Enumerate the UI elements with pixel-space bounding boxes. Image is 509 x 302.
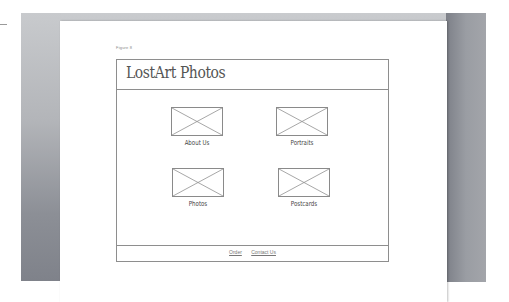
footer-link-contact-us[interactable]: Contact Us xyxy=(251,249,276,255)
tile-label: About Us xyxy=(174,139,221,147)
tile-portraits[interactable]: Portraits xyxy=(272,107,332,147)
figure-label: Figure 8 xyxy=(116,45,132,50)
wireframe-footer: Order Contact Us xyxy=(117,245,388,261)
image-placeholder-icon xyxy=(278,168,330,197)
footer-links: Order Contact Us xyxy=(117,249,388,255)
image-placeholder-icon xyxy=(172,168,224,197)
tile-about-us[interactable]: About Us xyxy=(167,107,227,147)
tile-label: Postcards xyxy=(281,200,328,208)
frame-right-edge xyxy=(446,13,486,282)
wireframe: LostArt Photos About Us Portraits Photos… xyxy=(116,59,389,262)
site-title: LostArt Photos xyxy=(126,62,225,82)
frame-left-edge xyxy=(21,13,61,281)
margin-tick xyxy=(0,24,7,25)
image-placeholder-icon xyxy=(171,107,223,136)
wireframe-header: LostArt Photos xyxy=(117,60,388,90)
tile-label: Portraits xyxy=(279,139,326,147)
tile-postcards[interactable]: Postcards xyxy=(274,168,334,208)
image-placeholder-icon xyxy=(276,107,328,136)
tile-label: Photos xyxy=(175,200,222,208)
footer-link-order[interactable]: Order xyxy=(229,249,242,255)
tile-photos[interactable]: Photos xyxy=(168,168,228,208)
